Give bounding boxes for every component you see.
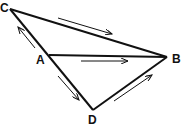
label-c: C bbox=[0, 1, 9, 15]
edge-d-b bbox=[93, 57, 167, 110]
edge-c-b bbox=[10, 9, 167, 57]
vector-diagram: C A B D bbox=[0, 0, 183, 134]
edge-a-b bbox=[49, 55, 167, 57]
edge-c-d bbox=[10, 9, 93, 110]
arrow-d-to-b bbox=[114, 75, 152, 101]
label-d: D bbox=[88, 113, 97, 127]
label-b: B bbox=[172, 52, 181, 66]
diagram-svg: C A B D bbox=[0, 0, 183, 134]
label-a: A bbox=[36, 53, 45, 67]
